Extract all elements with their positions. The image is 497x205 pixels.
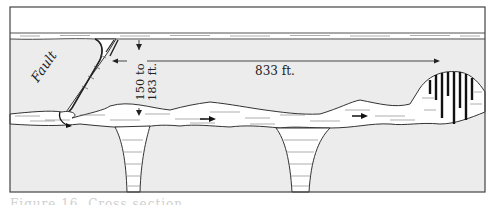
depth-label-line2: 183 ft. [146, 54, 158, 110]
distance-label: 833 ft. [255, 64, 295, 78]
diagram-canvas [0, 0, 497, 205]
figure-caption: Figure 16. Cross section [10, 197, 183, 205]
cave-cross-section-diagram: Fault 150 to 183 ft. 833 ft. Figure 16. … [0, 0, 497, 205]
depth-label: 150 to 183 ft. [134, 54, 158, 110]
